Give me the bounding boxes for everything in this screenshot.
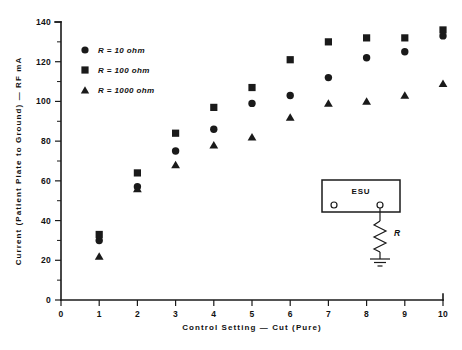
x-tick-label: 10 bbox=[438, 309, 448, 319]
legend-item-r1000: R = 1000 ohm bbox=[81, 86, 155, 95]
data-point-circle bbox=[401, 48, 408, 55]
scatter-plot-svg: 020406080100120140 012345678910 Current … bbox=[0, 0, 462, 350]
legend-item-label: R = 100 ohm bbox=[98, 66, 150, 75]
resistor-label: R bbox=[394, 228, 401, 238]
data-point-triangle bbox=[400, 91, 409, 99]
data-point-triangle bbox=[171, 161, 180, 169]
y-tick-label: 60 bbox=[41, 176, 51, 186]
y-tick-label: 120 bbox=[36, 57, 51, 67]
esu-terminal-right-icon bbox=[377, 202, 383, 208]
data-point-square bbox=[96, 231, 103, 238]
y-tick-label: 100 bbox=[36, 96, 51, 106]
legend-item-r100: R = 100 ohm bbox=[81, 66, 149, 75]
y-tick-label: 0 bbox=[46, 295, 51, 305]
data-point-triangle bbox=[248, 133, 257, 141]
series-2 bbox=[96, 26, 447, 238]
data-point-square bbox=[248, 84, 255, 91]
data-point-circle bbox=[210, 126, 217, 133]
x-tick-label: 1 bbox=[97, 309, 102, 319]
legend-item-r10: R = 10 ohm bbox=[81, 46, 145, 55]
y-axis-title: Current (Patient Plate to Ground) — RF m… bbox=[14, 57, 23, 266]
data-point-square bbox=[210, 104, 217, 111]
x-tick-label: 7 bbox=[326, 309, 331, 319]
x-axis-tick-labels: 012345678910 bbox=[58, 309, 448, 319]
data-point-circle bbox=[363, 54, 370, 61]
data-point-square bbox=[363, 34, 370, 41]
x-tick-label: 8 bbox=[364, 309, 369, 319]
y-axis-tick-labels: 020406080100120140 bbox=[36, 17, 51, 305]
data-point-square bbox=[134, 169, 141, 176]
data-point-circle bbox=[325, 74, 332, 81]
inset-circuit-diagram: ESU R bbox=[322, 180, 401, 266]
x-tick-label: 4 bbox=[211, 309, 216, 319]
x-axis-ticks bbox=[61, 300, 443, 306]
esu-terminal-left-icon bbox=[331, 202, 337, 208]
x-tick-label: 3 bbox=[173, 309, 178, 319]
x-tick-label: 9 bbox=[402, 309, 407, 319]
x-axis-title: Control Setting — Cut (Pure) bbox=[182, 323, 322, 332]
data-point-square bbox=[325, 38, 332, 45]
x-tick-label: 0 bbox=[58, 309, 63, 319]
esu-box-label: ESU bbox=[352, 187, 371, 196]
y-tick-label: 80 bbox=[41, 136, 51, 146]
data-point-circle bbox=[248, 100, 255, 107]
y-tick-label: 40 bbox=[41, 216, 51, 226]
data-point-triangle bbox=[209, 141, 218, 149]
esu-box bbox=[322, 180, 400, 212]
data-point-triangle bbox=[362, 97, 371, 105]
data-point-square bbox=[172, 130, 179, 137]
data-point-triangle bbox=[439, 79, 448, 87]
legend-square-marker bbox=[81, 66, 88, 73]
legend-item-label: R = 1000 ohm bbox=[98, 86, 155, 95]
chart-figure: 020406080100120140 012345678910 Current … bbox=[0, 0, 462, 350]
data-point-triangle bbox=[324, 99, 333, 107]
data-point-circle bbox=[172, 147, 179, 154]
x-tick-label: 2 bbox=[135, 309, 140, 319]
axes-group bbox=[55, 22, 443, 300]
data-point-square bbox=[439, 26, 446, 33]
resistor-zigzag-icon bbox=[374, 221, 386, 252]
data-point-square bbox=[287, 56, 294, 63]
legend: R = 10 ohm R = 100 ohm R = 1000 ohm bbox=[81, 46, 155, 95]
legend-circle-marker bbox=[81, 46, 88, 53]
y-tick-label: 140 bbox=[36, 17, 51, 27]
legend-triangle-marker bbox=[81, 86, 89, 93]
data-point-circle bbox=[287, 92, 294, 99]
data-point-triangle bbox=[286, 113, 295, 121]
legend-item-label: R = 10 ohm bbox=[98, 46, 145, 55]
data-point-square bbox=[401, 34, 408, 41]
x-tick-label: 6 bbox=[288, 309, 293, 319]
data-series-group bbox=[95, 26, 448, 259]
x-tick-label: 5 bbox=[249, 309, 254, 319]
y-tick-label: 20 bbox=[41, 255, 51, 265]
data-point-triangle bbox=[95, 252, 104, 260]
